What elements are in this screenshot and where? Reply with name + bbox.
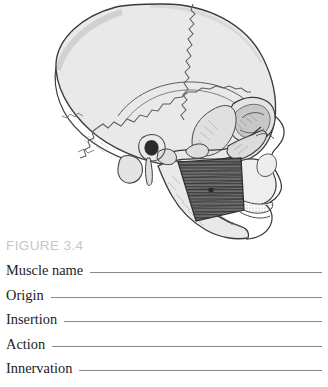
answer-input-insertion[interactable] [64,321,322,322]
answer-label-action: Action [0,336,45,353]
answer-row-insertion: Insertion [0,311,328,336]
answer-input-innervation[interactable] [79,370,322,371]
worksheet-answer-lines: Muscle name Origin Insertion Action Inne… [0,262,328,385]
answer-input-action[interactable] [52,346,322,347]
answer-label-origin: Origin [0,287,44,304]
lateral-skull-illustration [0,0,328,240]
answer-input-origin[interactable] [51,297,322,298]
figure-worksheet-page: FIGURE 3.4 Muscle name Origin Insertion … [0,0,328,387]
answer-label-innervation: Innervation [0,360,72,377]
answer-input-muscle-name[interactable] [90,272,322,273]
answer-row-origin: Origin [0,287,328,312]
mental-foramen [231,222,234,225]
masseter-center-marker [208,187,213,192]
answer-row-action: Action [0,336,328,361]
answer-row-innervation: Innervation [0,360,328,385]
answer-row-muscle-name: Muscle name [0,262,328,287]
figure-caption: FIGURE 3.4 [6,238,84,253]
asterion-detail [78,149,94,153]
answer-label-insertion: Insertion [0,311,57,328]
mastoid-process [118,155,143,183]
external-auditory-meatus [145,141,158,156]
answer-label-muscle-name: Muscle name [0,262,83,279]
styloid-process [146,158,153,186]
mandibular-condyle [157,149,176,165]
